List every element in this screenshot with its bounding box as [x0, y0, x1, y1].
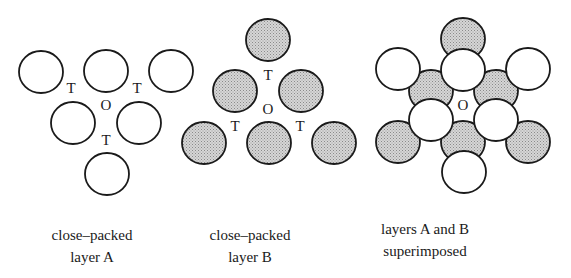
caption-line: layer A [12, 246, 172, 268]
tetrahedral-site-label: T [132, 80, 141, 96]
caption-layer-b: close–packed layer B [170, 224, 330, 268]
panel-layer-a: TTOT [19, 50, 193, 195]
octahedral-site-label: O [263, 101, 274, 117]
caption-layer-a: close–packed layer A [12, 224, 172, 268]
caption-superimposed: layers A and B superimposed [345, 218, 505, 262]
atom-layer-a [84, 50, 128, 92]
atom-layer-a [474, 99, 518, 141]
panel-layer-b: TOTT [182, 19, 356, 164]
atom-layer-a [376, 48, 420, 90]
octahedral-site-label: O [101, 97, 112, 113]
tetrahedral-site-label: T [230, 118, 239, 134]
caption-line: superimposed [345, 240, 505, 262]
atom-layer-a [441, 49, 485, 91]
atom-layer-b [312, 122, 356, 164]
atom-layer-a [442, 151, 486, 193]
atom-layer-b [213, 70, 257, 112]
atom-layer-a [85, 153, 129, 195]
panel-superimposed: O [376, 18, 550, 193]
atom-layer-a [409, 99, 453, 141]
caption-line: close–packed [170, 224, 330, 246]
atom-layer-a [117, 102, 161, 144]
caption-line: layers A and B [345, 218, 505, 240]
atom-layer-b [247, 122, 291, 164]
atom-layer-b [279, 70, 323, 112]
caption-line: close–packed [12, 224, 172, 246]
atom-layer-a [149, 50, 193, 92]
tetrahedral-site-label: T [263, 67, 272, 83]
tetrahedral-site-label: T [66, 80, 75, 96]
atom-layer-b [182, 122, 226, 164]
atom-layer-b [246, 19, 290, 61]
atom-layer-a [506, 48, 550, 90]
tetrahedral-site-label: T [101, 132, 110, 148]
caption-line: layer B [170, 246, 330, 268]
atom-layer-a [19, 51, 63, 93]
tetrahedral-site-label: T [295, 118, 304, 134]
octahedral-site-label: O [458, 97, 469, 113]
atom-layer-a [51, 102, 95, 144]
